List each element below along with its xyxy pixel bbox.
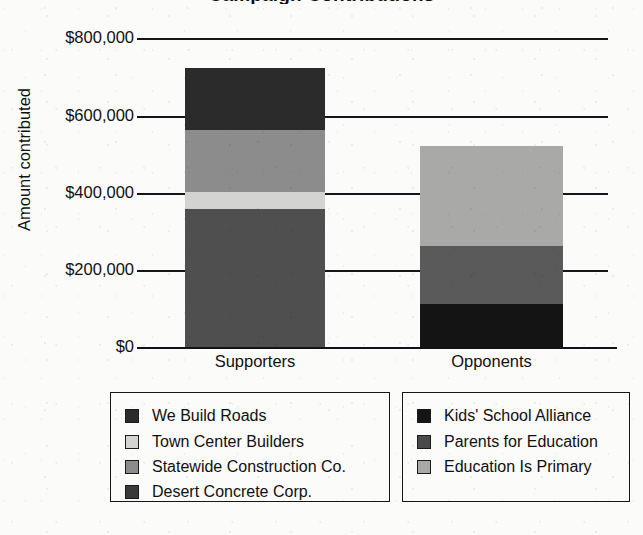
legend-label: Kids' School Alliance: [444, 408, 591, 424]
bar-segment-statewide-construction-co[interactable]: [185, 130, 325, 192]
y-tick-label: $400,000: [34, 184, 134, 201]
legend-swatch-icon: [417, 435, 431, 449]
y-tick-label: $0: [34, 338, 134, 355]
bar-segment-education-is-primary[interactable]: [420, 146, 563, 246]
y-axis-label: Amount contributed: [15, 50, 34, 270]
gridline-800000: [137, 38, 608, 40]
chart-page: Campaign Contributions Amount contribute…: [0, 0, 643, 535]
legend-label: Town Center Builders: [152, 434, 304, 450]
bar-opponents[interactable]: [420, 146, 563, 347]
legend-label: Education Is Primary: [444, 459, 592, 475]
legend-swatch-icon: [125, 435, 139, 449]
y-tick-label: $800,000: [34, 29, 134, 46]
plot-area: Amount contributed $800,000 $600,000 $40…: [0, 0, 643, 380]
legend-swatch-icon: [125, 485, 139, 499]
bar-supporters[interactable]: [185, 68, 325, 347]
bar-segment-desert-concrete-corp[interactable]: [185, 209, 325, 347]
legend-item-town-center-builders[interactable]: Town Center Builders: [125, 431, 304, 453]
bar-segment-we-build-roads[interactable]: [185, 68, 325, 130]
x-axis-category-supporters: Supporters: [185, 352, 325, 371]
legend-item-desert-concrete-corp[interactable]: Desert Concrete Corp.: [125, 481, 312, 503]
legend-item-we-build-roads[interactable]: We Build Roads: [125, 405, 266, 427]
legend-label: We Build Roads: [152, 408, 266, 424]
x-axis-line: [137, 347, 617, 349]
legend-label: Parents for Education: [444, 434, 598, 450]
x-axis-category-opponents: Opponents: [420, 352, 563, 371]
legend-opponents: Kids' School Alliance Parents for Educat…: [402, 392, 630, 502]
legend-swatch-icon: [125, 409, 139, 423]
legend-item-statewide-construction-co[interactable]: Statewide Construction Co.: [125, 456, 346, 478]
y-tick-label: $200,000: [34, 261, 134, 278]
legend-swatch-icon: [125, 460, 139, 474]
bar-segment-kids-school-alliance[interactable]: [420, 304, 563, 347]
legend-swatch-icon: [417, 409, 431, 423]
y-tick-label: $600,000: [34, 107, 134, 124]
legend-swatch-icon: [417, 460, 431, 474]
legend-label: Statewide Construction Co.: [152, 459, 346, 475]
legend-item-education-is-primary[interactable]: Education Is Primary: [417, 456, 592, 478]
legend-label: Desert Concrete Corp.: [152, 484, 312, 500]
legend-item-kids-school-alliance[interactable]: Kids' School Alliance: [417, 405, 591, 427]
bar-segment-town-center-builders[interactable]: [185, 192, 325, 209]
legend-item-parents-for-education[interactable]: Parents for Education: [417, 431, 598, 453]
legend-supporters: We Build Roads Town Center Builders Stat…: [110, 392, 390, 502]
bar-segment-parents-for-education[interactable]: [420, 246, 563, 304]
